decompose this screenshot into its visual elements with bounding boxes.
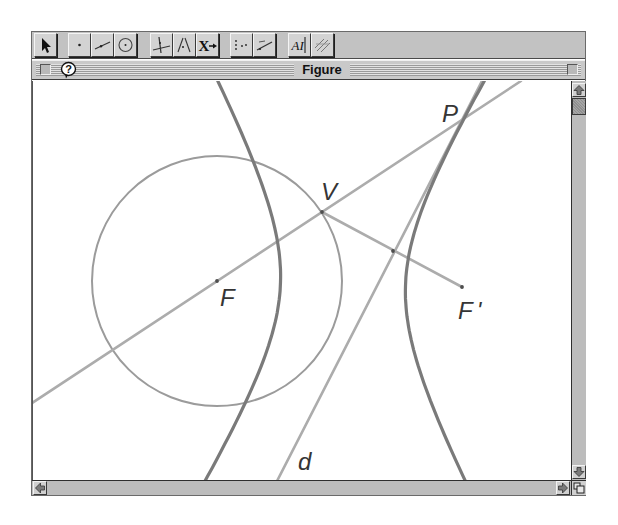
vertical-scrollbar[interactable] — [571, 81, 586, 480]
transform-icon: X — [197, 34, 218, 56]
horizontal-scrollbar[interactable] — [32, 480, 571, 495]
svg-text:X: X — [199, 38, 210, 54]
help-balloon-icon[interactable]: ? — [60, 61, 77, 78]
tool-measure-button[interactable] — [253, 33, 276, 57]
hyperbola-left-branch[interactable] — [174, 81, 280, 480]
arrow-left-icon — [34, 482, 46, 494]
tool-circle-button[interactable] — [114, 33, 137, 57]
tool-text-button[interactable]: AI — [288, 33, 311, 57]
toolbar: X AI — [32, 32, 585, 59]
arrow-pointer-icon — [35, 34, 56, 56]
zoom-box-icon[interactable] — [567, 64, 578, 75]
figure-canvas[interactable]: FVPF'd — [32, 81, 571, 480]
scroll-right-button[interactable] — [556, 481, 570, 495]
point-F[interactable] — [215, 279, 219, 283]
close-box-icon[interactable] — [40, 64, 51, 75]
window-title: Figure — [295, 61, 349, 79]
tool-parallel-button[interactable] — [173, 33, 196, 57]
arrow-down-icon — [573, 466, 585, 478]
parallel-line-icon — [174, 34, 195, 56]
label-F: F — [220, 284, 236, 311]
scroll-up-button[interactable] — [572, 83, 586, 97]
text-label-icon: AI — [289, 34, 310, 56]
label-d: d — [298, 448, 312, 475]
tool-point-button[interactable] — [68, 33, 91, 57]
measure-icon — [254, 34, 275, 56]
circle-icon — [115, 34, 136, 56]
tool-select-button[interactable] — [34, 33, 57, 57]
title-bar-stripes — [350, 64, 581, 76]
label-F-prime: F' — [458, 297, 485, 324]
tool-perpendicular-button[interactable] — [150, 33, 173, 57]
tool-transform-button[interactable]: X — [196, 33, 219, 57]
perpendicular-line-icon — [151, 34, 172, 56]
point-midpoint[interactable] — [391, 249, 395, 253]
point-F-prime[interactable] — [460, 285, 464, 289]
scroll-down-button[interactable] — [572, 465, 586, 479]
segment-icon — [92, 34, 113, 56]
tool-hatch-button[interactable] — [311, 33, 334, 57]
label-P: P — [442, 100, 458, 127]
label-V: V — [321, 178, 339, 205]
window-title-bar[interactable]: ? Figure — [32, 60, 585, 80]
arrow-right-icon — [557, 482, 569, 494]
point-V[interactable] — [320, 210, 324, 214]
resize-grow-icon — [572, 481, 586, 495]
vertical-scroll-thumb[interactable] — [572, 98, 586, 115]
tool-segment-button[interactable] — [91, 33, 114, 57]
locus-icon — [231, 34, 252, 56]
geometry-drawing[interactable]: FVPF'd — [33, 81, 571, 480]
hyperbola-right-branch[interactable] — [405, 81, 511, 480]
point-icon — [69, 34, 90, 56]
arrow-up-icon — [573, 84, 585, 96]
resize-grow-box[interactable] — [571, 480, 586, 495]
scroll-left-button[interactable] — [33, 481, 47, 495]
hatch-pattern-icon — [312, 34, 333, 56]
svg-text:?: ? — [65, 63, 72, 75]
svg-text:AI: AI — [291, 38, 305, 53]
tool-locus-button[interactable] — [230, 33, 253, 57]
